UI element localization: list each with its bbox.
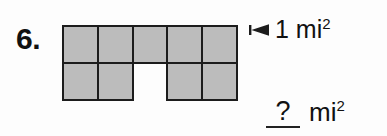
unit-cell-r0c1 xyxy=(97,25,134,64)
unit-cell-r1c1 xyxy=(97,62,134,101)
unit-cell-r1c0 xyxy=(62,62,99,101)
answer-unit-text: mi xyxy=(309,97,336,127)
worksheet-problem-figure: 6. 1 mi2 ? mi2 xyxy=(0,0,387,136)
unit-cell-r1c2-empty xyxy=(132,62,169,101)
grid-row-bottom xyxy=(62,64,246,103)
unit-cell-r0c4 xyxy=(201,25,238,64)
arrow-left-icon xyxy=(249,22,271,38)
answer-exponent: 2 xyxy=(336,97,344,114)
unit-cell-r1c3 xyxy=(166,62,203,101)
unit-cell-r0c3 xyxy=(166,25,203,64)
answer-unit-label: mi2 xyxy=(309,99,345,128)
answer-area: ? mi2 xyxy=(266,97,345,128)
callout-value: 1 mi2 xyxy=(275,17,331,42)
unit-cell-r0c0 xyxy=(62,25,99,64)
callout-number: 1 xyxy=(275,15,289,43)
unit-square-grid xyxy=(62,25,246,103)
callout-exponent: 2 xyxy=(322,15,330,32)
grid-row-top xyxy=(62,25,246,64)
unit-cell-r0c2 xyxy=(132,25,169,64)
problem-number-label: 6. xyxy=(16,24,40,54)
answer-blank-field[interactable]: ? xyxy=(266,97,300,128)
callout-unit: mi xyxy=(296,15,322,43)
unit-cell-r1c4 xyxy=(201,62,238,101)
unit-square-callout: 1 mi2 xyxy=(249,17,331,42)
